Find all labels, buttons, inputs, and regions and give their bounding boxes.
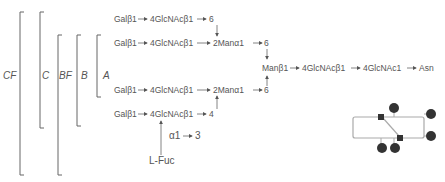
row2-glcnac: 4GlcNAcβ1 [150, 38, 193, 48]
row1-link: 6 [209, 14, 214, 24]
row2-link: 6 [264, 38, 269, 48]
row3-link: 6 [264, 85, 269, 95]
bracket-bf [58, 35, 62, 175]
bracket-label-a: A [103, 70, 110, 82]
row4-link: 4 [209, 109, 214, 119]
core-glcnac2: 4GlcNAc1 [363, 63, 401, 73]
bracket-a [97, 35, 101, 97]
fuc-name: L-Fuc [149, 156, 175, 166]
core-glcnac1: 4GlcNAcβ1 [302, 63, 345, 73]
glycan-schematic-icon [353, 103, 436, 153]
bracket-label-bf: BF [59, 70, 72, 82]
bracket-cf [20, 12, 24, 175]
row2-gal: Galβ1 [114, 38, 137, 48]
fuc-linkage-alpha: α1 [169, 131, 180, 141]
row3-man: 2Manα1 [213, 85, 244, 95]
core-asn: Asn [419, 63, 434, 73]
bracket-label-b: B [81, 70, 88, 82]
row1-glcnac: 4GlcNAcβ1 [150, 14, 193, 24]
row4-gal: Galβ1 [114, 109, 137, 119]
row2-man: 2Manα1 [213, 38, 244, 48]
row3-gal: Galβ1 [114, 85, 137, 95]
row3-glcnac: 4GlcNAcβ1 [150, 85, 193, 95]
fuc-linkage-pos: 3 [195, 131, 201, 141]
bracket-label-c: C [42, 70, 49, 82]
bracket-label-cf: CF [3, 70, 16, 82]
core-man: Manβ1 [262, 63, 288, 73]
row1-gal: Galβ1 [114, 14, 137, 24]
row4-glcnac: 4GlcNAcβ1 [150, 109, 193, 119]
